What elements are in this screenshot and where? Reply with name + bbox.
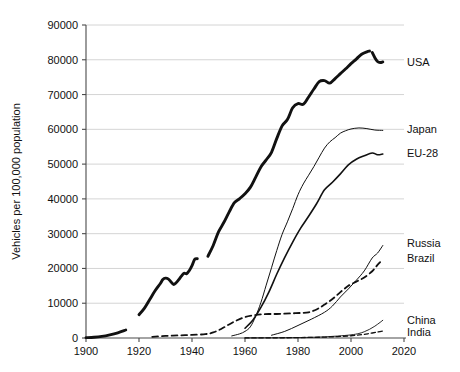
y-tick-label: 10000 xyxy=(47,297,78,309)
x-tick-label: 2020 xyxy=(392,345,416,357)
y-tick-label: 90000 xyxy=(47,19,78,31)
y-tick-label: 40000 xyxy=(47,193,78,205)
y-axis-title-text: Vehicles per 100,000 population xyxy=(10,103,22,260)
series-line-brazil xyxy=(152,259,383,337)
y-axis-title: Vehicles per 100,000 population xyxy=(10,103,22,260)
series-line-eu-28 xyxy=(245,153,383,328)
series-line-usa xyxy=(208,51,370,256)
x-axis-ticks: 1900192019401960198020002020 xyxy=(74,338,416,357)
y-tick-label: 80000 xyxy=(47,54,78,66)
series-label-japan: Japan xyxy=(407,123,437,135)
y-tick-label: 20000 xyxy=(47,262,78,274)
series-label-usa: USA xyxy=(407,56,430,68)
x-tick-label: 2000 xyxy=(339,345,363,357)
x-tick-label: 1920 xyxy=(127,345,151,357)
series-label-india: India xyxy=(407,326,432,338)
x-tick-label: 1960 xyxy=(233,345,257,357)
series-line-japan xyxy=(232,128,383,336)
series-label-eu-28: EU-28 xyxy=(407,147,438,159)
series-label-china: China xyxy=(407,314,437,326)
x-tick-label: 1980 xyxy=(286,345,310,357)
series-label-brazil: Brazil xyxy=(407,252,435,264)
series-line-usa xyxy=(86,330,126,338)
series-line-china xyxy=(245,320,383,338)
series-labels: USAJapanEU-28RussiaBrazilChinaIndia xyxy=(407,56,442,338)
x-tick-label: 1900 xyxy=(74,345,98,357)
gridlines xyxy=(86,25,404,303)
chart-container: 0100002000030000400005000060000700008000… xyxy=(0,0,460,372)
y-tick-label: 30000 xyxy=(47,228,78,240)
y-tick-label: 0 xyxy=(72,332,78,344)
y-tick-label: 50000 xyxy=(47,158,78,170)
y-tick-label: 70000 xyxy=(47,89,78,101)
y-tick-label: 60000 xyxy=(47,123,78,135)
series-line-usa xyxy=(139,259,197,315)
vehicles-per-capita-line-chart: 0100002000030000400005000060000700008000… xyxy=(0,0,460,372)
x-tick-label: 1940 xyxy=(180,345,204,357)
axes xyxy=(86,25,406,338)
series-line-usa xyxy=(372,52,383,62)
data-series xyxy=(86,51,383,338)
y-axis-ticks: 0100002000030000400005000060000700008000… xyxy=(47,19,86,344)
series-line-russia xyxy=(272,245,383,335)
series-label-russia: Russia xyxy=(407,237,442,249)
